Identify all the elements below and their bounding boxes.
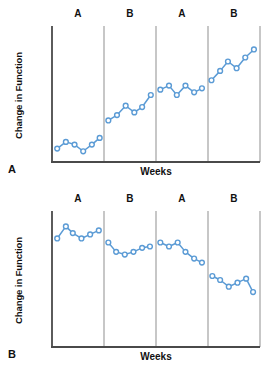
data-point bbox=[209, 78, 214, 83]
plot-area-a bbox=[0, 0, 272, 185]
y-axis-title-b: Change in Function bbox=[13, 231, 24, 331]
data-point bbox=[226, 284, 231, 289]
panel-letter-a: A bbox=[8, 163, 16, 175]
data-point bbox=[158, 87, 163, 92]
panel-letter-b: B bbox=[8, 348, 16, 360]
data-point bbox=[167, 244, 172, 249]
data-point bbox=[114, 249, 119, 254]
plot-area-b bbox=[0, 185, 272, 370]
data-point bbox=[234, 66, 239, 71]
data-point bbox=[167, 83, 172, 88]
data-point bbox=[251, 290, 256, 295]
data-line-4 bbox=[211, 49, 253, 80]
data-point bbox=[106, 240, 111, 245]
y-axis-title-a: Change in Function bbox=[13, 46, 24, 146]
data-point bbox=[218, 278, 223, 283]
data-point bbox=[89, 142, 94, 147]
data-point bbox=[122, 252, 127, 257]
data-point bbox=[183, 249, 188, 254]
data-point bbox=[210, 274, 215, 279]
x-axis-title-a: Weeks bbox=[52, 166, 260, 177]
data-point bbox=[123, 103, 128, 108]
data-point bbox=[158, 240, 163, 245]
data-point bbox=[132, 110, 137, 115]
data-point bbox=[63, 140, 68, 145]
data-point bbox=[97, 135, 102, 140]
data-point bbox=[55, 146, 60, 151]
data-point bbox=[115, 113, 120, 118]
data-point bbox=[70, 231, 75, 236]
data-point bbox=[148, 93, 153, 98]
data-point bbox=[226, 59, 231, 64]
data-point bbox=[235, 280, 240, 285]
data-point bbox=[192, 90, 197, 95]
data-point bbox=[243, 55, 248, 60]
data-point bbox=[72, 142, 77, 147]
ab-design-figure: A B A B Change in Function Weeks A A B A… bbox=[0, 0, 272, 370]
data-point bbox=[63, 224, 68, 229]
data-point bbox=[96, 228, 101, 233]
chart-panel-a: A B A B Change in Function Weeks A bbox=[0, 0, 272, 185]
x-axis-title-b: Weeks bbox=[52, 351, 260, 362]
data-point bbox=[79, 236, 84, 241]
data-point bbox=[183, 83, 188, 88]
data-point bbox=[81, 149, 86, 154]
data-point bbox=[200, 260, 205, 265]
data-point bbox=[200, 86, 205, 91]
chart-panel-b: A B A B Change in Function Weeks B bbox=[0, 185, 272, 370]
data-point bbox=[140, 245, 145, 250]
data-point bbox=[244, 276, 249, 281]
data-point bbox=[218, 68, 223, 73]
data-point bbox=[192, 256, 197, 261]
data-point bbox=[88, 232, 93, 237]
data-point bbox=[174, 93, 179, 98]
data-point bbox=[175, 240, 180, 245]
data-point bbox=[131, 249, 136, 254]
data-point bbox=[55, 236, 60, 241]
data-point bbox=[140, 105, 145, 110]
data-point bbox=[252, 47, 257, 52]
data-point bbox=[148, 244, 153, 249]
data-point bbox=[106, 118, 111, 123]
